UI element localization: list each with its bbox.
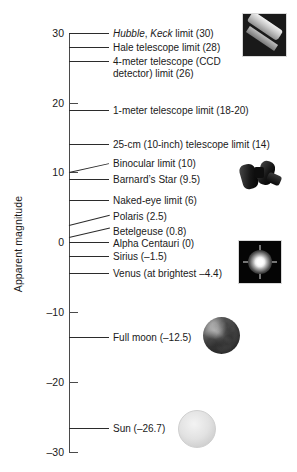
label-betelgeuse: Betelgeuse (0.8): [113, 226, 186, 238]
binocular-bridge-icon: [254, 167, 264, 178]
axis-tick-20: [69, 103, 78, 104]
apparent-magnitude-chart: Apparent magnitude 30 20 10 0 –10 –20 –3…: [0, 0, 297, 472]
full-moon-photo: [203, 317, 240, 354]
leader-line-twentyfive-cm-telescope-limit: [69, 144, 109, 145]
leader-line-hubble-keck-limit: [69, 33, 109, 34]
binoculars-photo: [239, 158, 287, 198]
axis-tick-label-30: 30: [52, 27, 64, 39]
axis-tick-label-0: 0: [58, 236, 64, 248]
label-sirius: Sirius (–1.5): [113, 251, 167, 263]
leader-line-one-meter-telescope-limit: [69, 110, 109, 111]
axis-tick-minus-30: [69, 452, 78, 453]
label-keck-italic: Keck: [150, 28, 172, 39]
axis-tick-label-minus-20: –20: [46, 376, 64, 388]
leader-line-naked-eye-limit: [69, 200, 109, 201]
label-barnards-star: Barnard’s Star (9.5): [113, 174, 200, 186]
leader-line-four-meter-telescope-limit: [69, 61, 109, 62]
star-glow-icon: [248, 250, 272, 274]
hubble-space-telescope-photo: [242, 13, 287, 57]
label-polaris: Polaris (2.5): [113, 211, 167, 223]
axis-tick-label-minus-30: –30: [46, 446, 64, 458]
leader-line-binocular-limit: [69, 163, 109, 173]
label-full-moon: Full moon (–12.5): [113, 332, 191, 344]
leader-line-venus: [69, 273, 109, 274]
axis-tick-label-10: 10: [52, 166, 64, 178]
y-axis-title: Apparent magnitude: [12, 174, 24, 314]
axis-tick-label-20: 20: [52, 97, 64, 109]
axis-tick-label-minus-10: –10: [46, 306, 64, 318]
label-hubble-italic: Hubble: [113, 28, 145, 39]
leader-line-sun: [69, 428, 109, 429]
leader-line-hale-telescope-limit: [69, 47, 109, 48]
label-sun: Sun (–26.7): [113, 423, 165, 435]
label-binocular-limit: Binocular limit (10): [113, 158, 196, 170]
sun-photo: [178, 410, 216, 448]
bright-star-photo: [238, 240, 282, 284]
leader-line-sirius: [69, 256, 109, 257]
label-naked-eye-limit: Naked-eye limit (6): [113, 195, 197, 207]
leader-line-full-moon: [69, 337, 109, 338]
axis-tick-minus-20: [69, 382, 78, 383]
label-venus: Venus (at brightest –4.4): [113, 268, 222, 280]
label-alpha-centauri: Alpha Centauri (0): [113, 238, 194, 250]
label-hale-telescope-limit: Hale telescope limit (28): [113, 42, 220, 54]
label-four-meter-telescope-limit: 4-meter telescope (CCD detector) limit (…: [113, 56, 243, 79]
axis-tick-minus-10: [69, 312, 78, 313]
label-hubble-keck-suffix: limit (30): [173, 28, 214, 39]
leader-line-alpha-centauri: [69, 242, 109, 243]
leader-line-barnards-star: [69, 179, 109, 180]
leader-line-polaris: [69, 215, 110, 226]
leader-line-betelgeuse: [69, 228, 110, 239]
label-twentyfive-cm-telescope-limit: 25-cm (10-inch) telescope limit (14): [113, 139, 270, 151]
label-one-meter-telescope-limit: 1-meter telescope limit (18-20): [113, 105, 249, 117]
label-hubble-keck-limit: Hubble, Keck limit (30): [113, 28, 214, 40]
